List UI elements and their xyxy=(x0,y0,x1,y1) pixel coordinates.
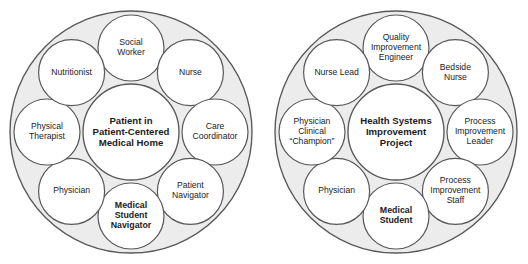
node-nurse-lead-label: Nurse Lead xyxy=(314,67,359,77)
node-medical-student-navigator-label-line: Navigator xyxy=(111,221,152,231)
node-medical-student-label: MedicalStudent xyxy=(380,205,413,225)
node-quality-improvement-engineer-label-line: Quality xyxy=(383,32,410,42)
center-patient-centered-medical-home-label-line: Patient in xyxy=(109,114,152,125)
node-medical-student: MedicalStudent xyxy=(363,183,429,249)
node-physician-clinical-champion-label-line: Physician xyxy=(294,116,331,126)
wheel-health-systems-improvement-project: QualityImprovementEngineerBedsideNursePr… xyxy=(275,11,517,253)
node-social-worker: SocialWorker xyxy=(98,15,164,81)
node-medical-student-navigator-label: MedicalStudentNavigator xyxy=(111,200,152,230)
node-bedside-nurse-label-line: Bedside xyxy=(440,62,471,72)
node-social-worker-label-line: Social xyxy=(119,37,142,47)
node-physician-label: Physician xyxy=(53,186,90,196)
center-health-systems-improvement-project-label-line: Project xyxy=(380,137,413,148)
node-physician-clinical-champion-label-line: Clinical xyxy=(298,126,326,136)
node-nutritionist-label: Nutritionist xyxy=(51,67,92,77)
wheel-diagram-svg: SocialWorkerNurseCareCoordinatorPatientN… xyxy=(0,0,528,264)
node-process-improvement-staff-label-line: Process xyxy=(440,176,471,186)
node-patient-navigator-label: PatientNavigator xyxy=(172,181,209,201)
node-nurse-label-line: Nurse xyxy=(179,67,202,77)
center-patient-centered-medical-home-label-line: Medical Home xyxy=(99,137,164,148)
node-nurse-lead-label-line: Nurse Lead xyxy=(314,67,359,77)
node-nutritionist: Nutritionist xyxy=(39,40,105,106)
node-process-improvement-leader-label-line: Leader xyxy=(467,136,494,146)
node-physician-label-line: Physician xyxy=(318,186,355,196)
node-physician-clinical-champion: PhysicianClinical“Champion” xyxy=(279,99,345,165)
node-physical-therapist-label-line: Physical xyxy=(31,121,63,131)
node-process-improvement-staff: ProcessImprovementStaff xyxy=(422,158,488,224)
node-process-improvement-leader: ProcessImprovementLeader xyxy=(447,99,513,165)
node-physician-label-line: Physician xyxy=(53,186,90,196)
node-care-coordinator: CareCoordinator xyxy=(182,99,248,165)
center-health-systems-improvement-project: Health SystemsImprovementProject xyxy=(348,84,444,180)
center-patient-centered-medical-home: Patient inPatient-CenteredMedical Home xyxy=(83,84,179,180)
node-physician: Physician xyxy=(39,158,105,224)
node-patient-navigator: PatientNavigator xyxy=(157,158,223,224)
node-process-improvement-staff-label-line: Staff xyxy=(447,196,465,206)
node-medical-student-navigator-label-line: Student xyxy=(115,210,148,220)
node-care-coordinator-label-line: Coordinator xyxy=(193,131,238,141)
node-social-worker-label: SocialWorker xyxy=(117,37,145,57)
center-health-systems-improvement-project-label-line: Improvement xyxy=(366,126,427,137)
node-physician: Physician xyxy=(304,158,370,224)
node-nurse: Nurse xyxy=(157,40,223,106)
node-nurse-lead: Nurse Lead xyxy=(304,40,370,106)
center-health-systems-improvement-project-label-line: Health Systems xyxy=(360,114,431,125)
node-patient-navigator-label-line: Navigator xyxy=(172,191,209,201)
node-bedside-nurse: BedsideNurse xyxy=(422,40,488,106)
node-physician-clinical-champion-label-line: “Champion” xyxy=(290,136,335,146)
care-team-wheel-figure: SocialWorkerNurseCareCoordinatorPatientN… xyxy=(0,0,528,264)
node-bedside-nurse-label: BedsideNurse xyxy=(440,62,471,82)
node-quality-improvement-engineer-label-line: Engineer xyxy=(379,52,414,62)
node-medical-student-navigator-label-line: Medical xyxy=(115,200,147,210)
node-quality-improvement-engineer: QualityImprovementEngineer xyxy=(363,15,429,81)
wheel-patient-centered-medical-home: SocialWorkerNurseCareCoordinatorPatientN… xyxy=(10,11,252,253)
node-medical-student-navigator: MedicalStudentNavigator xyxy=(98,183,164,249)
node-medical-student-label-line: Student xyxy=(380,215,413,225)
node-process-improvement-leader-label-line: Improvement xyxy=(455,126,506,136)
node-bedside-nurse-label-line: Nurse xyxy=(444,72,467,82)
node-quality-improvement-engineer-label-line: Improvement xyxy=(371,42,422,52)
node-care-coordinator-label-line: Care xyxy=(206,121,225,131)
node-nutritionist-label-line: Nutritionist xyxy=(51,67,92,77)
node-patient-navigator-label-line: Patient xyxy=(177,181,204,191)
node-process-improvement-leader-label-line: Process xyxy=(464,116,495,126)
node-nurse-label: Nurse xyxy=(179,67,202,77)
node-physical-therapist-label: PhysicalTherapist xyxy=(29,121,65,141)
node-physical-therapist-label-line: Therapist xyxy=(29,131,65,141)
node-physical-therapist: PhysicalTherapist xyxy=(14,99,80,165)
node-social-worker-label-line: Worker xyxy=(117,47,145,57)
center-patient-centered-medical-home-label-line: Patient-Centered xyxy=(93,126,170,137)
node-medical-student-label-line: Medical xyxy=(380,205,412,215)
node-process-improvement-staff-label-line: Improvement xyxy=(430,186,481,196)
node-physician-label: Physician xyxy=(318,186,355,196)
